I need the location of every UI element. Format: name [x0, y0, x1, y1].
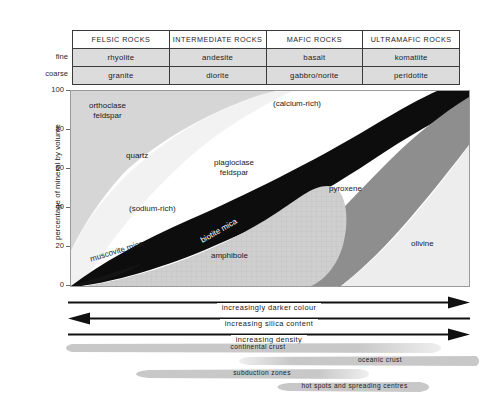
- y-axis: 100 80 60 40 20 0: [36, 84, 70, 294]
- table-row: rhyolite andesite basalt komatiite: [73, 49, 460, 67]
- bar-label-oceanic-crust: oceanic crust: [310, 356, 450, 363]
- bar-label-hot-spots: hot spots and spreading centres: [282, 382, 427, 389]
- chart-regions-svg: [71, 91, 469, 286]
- table-header-intermediate: INTERMEDIATE ROCKS: [169, 31, 266, 49]
- cell-fine-mafic: basalt: [266, 49, 363, 67]
- bar-label-subduction-zones: subduction zones: [182, 369, 342, 376]
- igneous-rock-composition-figure: fine coarse FELSIC ROCKS INTERMEDIATE RO…: [0, 0, 494, 404]
- table-row: granite diorite gabbro/norite peridotite: [73, 67, 460, 85]
- arrow-row-silica-content: increasing silica content: [68, 311, 470, 324]
- y-tick-label-100: 100: [38, 85, 64, 94]
- cell-coarse-ultramafic: peridotite: [363, 67, 460, 85]
- cell-coarse-intermediate: diorite: [169, 67, 266, 85]
- table-header-mafic: MAFIC ROCKS: [266, 31, 363, 49]
- arrow-row-darker-colour: increasingly darker colour: [68, 295, 470, 308]
- cell-coarse-mafic: gabbro/norite: [266, 67, 363, 85]
- tectonic-setting-bars: continental crust oceanic crust subducti…: [60, 340, 480, 396]
- table-row-label-coarse: coarse: [20, 69, 68, 78]
- y-tick-label-20: 20: [38, 241, 64, 250]
- table-row-label-fine: fine: [20, 52, 68, 61]
- rock-classification-table: FELSIC ROCKS INTERMEDIATE ROCKS MAFIC RO…: [72, 30, 460, 85]
- table-header-felsic: FELSIC ROCKS: [73, 31, 170, 49]
- cell-fine-intermediate: andesite: [169, 49, 266, 67]
- y-tick-label-60: 60: [38, 163, 64, 172]
- mineral-composition-chart: orthoclase feldspar quartz plagioclase f…: [70, 90, 470, 287]
- arrow-row-density: increasing density: [68, 327, 470, 340]
- bar-label-continental-crust: continental crust: [178, 343, 338, 350]
- y-tick-label-40: 40: [38, 202, 64, 211]
- y-tick-label-80: 80: [38, 124, 64, 133]
- table-header-row: FELSIC ROCKS INTERMEDIATE ROCKS MAFIC RO…: [73, 31, 460, 49]
- cell-coarse-felsic: granite: [73, 67, 170, 85]
- cell-fine-felsic: rhyolite: [73, 49, 170, 67]
- y-tick-label-0: 0: [38, 280, 64, 289]
- cell-fine-ultramafic: komatiite: [363, 49, 460, 67]
- table-header-ultramafic: ULTRAMAFIC ROCKS: [363, 31, 460, 49]
